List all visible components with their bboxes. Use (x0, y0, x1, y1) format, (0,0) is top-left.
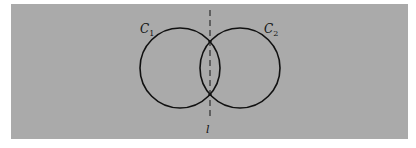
intersection-top (208, 40, 211, 43)
label-c2: C2 (264, 22, 278, 38)
label-c1: C1 (140, 22, 154, 38)
label-l: l (206, 123, 210, 136)
diagram-canvas: C1 C2 l (0, 0, 416, 148)
circle-c2 (200, 28, 280, 108)
intersection-bottom (208, 93, 211, 96)
circle-c1 (140, 28, 220, 108)
